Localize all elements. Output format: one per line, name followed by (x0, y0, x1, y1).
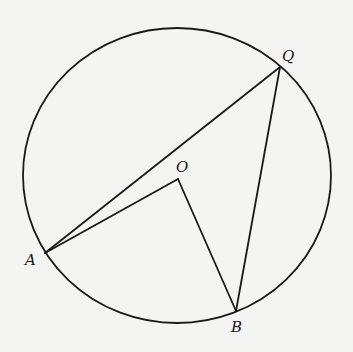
radius-oa (45, 179, 178, 253)
chord-qa (45, 67, 280, 253)
label-q: Q (282, 47, 294, 65)
diagram-canvas: Q O A B (0, 0, 353, 352)
circle-diagram: Q O A B (0, 0, 353, 352)
chord-qb (236, 67, 280, 311)
radius-ob (178, 179, 236, 311)
label-a: A (23, 251, 36, 269)
label-b: B (230, 318, 242, 336)
label-o: O (176, 158, 188, 176)
